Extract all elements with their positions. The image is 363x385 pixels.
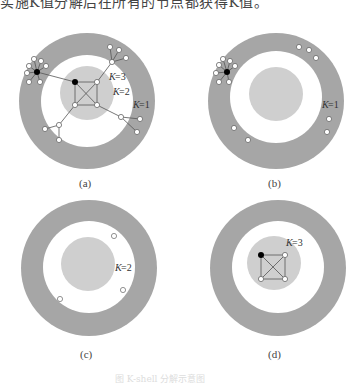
panel-a: K=3 K=2 K=1 (19, 33, 155, 169)
caption-c: (c) (80, 348, 92, 360)
caption-b: (b) (268, 177, 281, 189)
panel-c: K=2 (21, 200, 157, 336)
svg-text:=1: =1 (139, 99, 150, 110)
svg-text:=2: =2 (119, 86, 130, 97)
figure-caption: 图 K-shell 分解示意图 (115, 372, 205, 385)
svg-text:=3: =3 (115, 71, 126, 82)
svg-text:=2: =2 (121, 262, 132, 273)
panel-b: K=1 (208, 33, 344, 169)
svg-text:=1: =1 (328, 99, 339, 110)
caption-d: (d) (268, 348, 281, 360)
svg-text:=3: =3 (292, 237, 303, 248)
caption-a: (a) (79, 177, 91, 189)
panel-d: K=3 (210, 200, 346, 336)
